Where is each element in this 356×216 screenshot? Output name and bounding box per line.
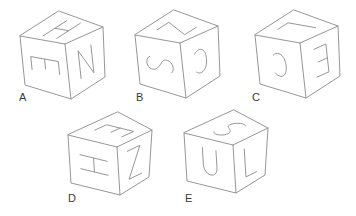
- cube-label-e: E: [185, 193, 192, 204]
- cube-a: [12, 6, 122, 106]
- cube-e-drawing: [171, 98, 281, 198]
- cube-c-drawing: [247, 5, 356, 105]
- cube-label-c: C: [252, 92, 260, 103]
- cube-c: [247, 5, 356, 105]
- cube-label-a: A: [19, 92, 26, 103]
- cube-b: [127, 5, 237, 105]
- cube-d: [55, 100, 165, 200]
- cube-label-d: D: [68, 193, 76, 204]
- cube-a-drawing: [12, 6, 122, 106]
- puzzle-figure: A B C D E: [0, 0, 356, 216]
- cube-d-drawing: [55, 100, 165, 200]
- cube-b-drawing: [127, 5, 237, 105]
- cube-e: [171, 98, 281, 198]
- cube-label-b: B: [136, 92, 143, 103]
